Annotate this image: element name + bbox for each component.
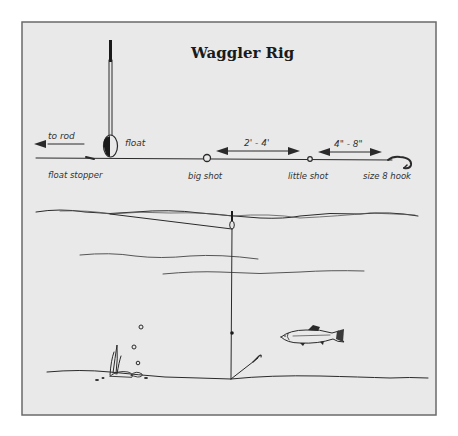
diagram-title: Waggler Rig — [190, 44, 295, 62]
distance-label-4-8in: 4" - 8" — [334, 139, 363, 149]
float-label: float — [125, 138, 146, 148]
hook-label: size 8 hook — [363, 171, 412, 181]
big-shot-label: big shot — [188, 171, 223, 181]
diagram-panel — [22, 22, 436, 415]
waggler-rig-diagram: Waggler Rig to rod float stopper float b… — [0, 0, 458, 436]
big-shot-icon — [204, 155, 211, 162]
little-shot-label: little shot — [288, 171, 329, 181]
float-stopper-label: float stopper — [48, 170, 103, 180]
distance-label-2-4ft: 2' - 4' — [244, 138, 269, 148]
to-rod-label: to rod — [48, 131, 75, 141]
little-shot-icon — [308, 157, 313, 162]
shot-in-water-icon — [230, 331, 234, 335]
